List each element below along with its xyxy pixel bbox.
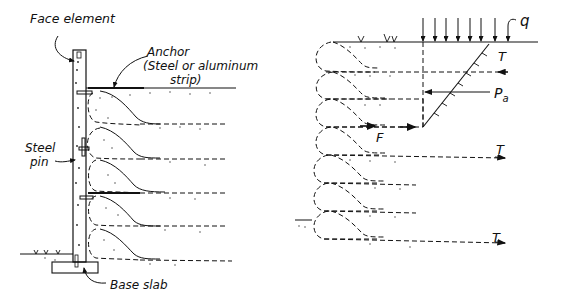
label-tension-mid: T [496, 143, 504, 156]
label-anchor: Anchor [147, 46, 189, 58]
steel-pin-leader [55, 160, 75, 162]
soil-layers [87, 91, 232, 261]
label-tension-top: T [498, 50, 506, 63]
surcharge-arrows [423, 18, 516, 41]
anchor-strips [88, 88, 144, 193]
label-base-slab: Base slab [110, 279, 168, 291]
label-pa-sub: a [502, 93, 508, 104]
base-slab-leader [84, 268, 106, 283]
diagram-canvas: Face element Anchor (Steel or aluminum s… [0, 0, 567, 306]
label-anchor-material: (Steel or aluminum [143, 60, 258, 72]
diagram-drawing [0, 0, 567, 306]
label-tension-bottom: T [492, 231, 500, 244]
label-steel: Steel [25, 142, 55, 154]
label-pin: pin [30, 156, 49, 168]
label-friction: F [376, 131, 383, 144]
failure-plane [423, 44, 489, 127]
left-panel [20, 36, 236, 283]
face-element-leader [55, 36, 74, 61]
label-active-pressure: Pa [494, 86, 509, 104]
label-anchor-strip: strip) [170, 74, 202, 86]
label-surcharge-q: q [520, 14, 530, 29]
grass-marks-right [358, 34, 397, 42]
label-face-element: Face element [30, 13, 115, 26]
right-soil-layers [314, 42, 508, 243]
grass-marks [34, 250, 60, 254]
